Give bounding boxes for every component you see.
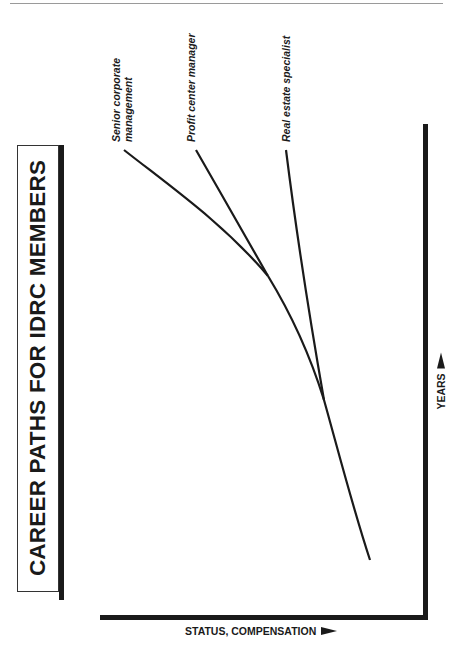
- right-arrow-icon: [321, 627, 337, 635]
- up-arrow-icon: [437, 352, 445, 368]
- path-senior-corporate: [124, 150, 268, 276]
- path-profit-center: [196, 150, 268, 276]
- x-axis: [100, 615, 428, 620]
- y-axis-label: YEARS: [435, 352, 447, 409]
- x-axis-label: STATUS, COMPENSATION: [185, 625, 337, 637]
- label-senior-line1: Senior corporate: [110, 58, 122, 142]
- label-senior-line2: management: [122, 58, 134, 142]
- label-real-estate-line1: Real estate specialist: [280, 36, 292, 142]
- y-axis: [423, 124, 428, 620]
- label-senior-corporate: Senior corporate management: [110, 58, 134, 142]
- label-profit-center: Profit center manager: [185, 33, 197, 142]
- career-paths-curves: [0, 0, 454, 646]
- path-trunk: [268, 276, 370, 560]
- label-real-estate: Real estate specialist: [280, 36, 292, 142]
- x-axis-label-text: STATUS, COMPENSATION: [185, 625, 316, 637]
- path-real-estate: [286, 150, 324, 400]
- y-axis-label-text: YEARS: [435, 373, 447, 409]
- label-profit-line1: Profit center manager: [185, 33, 197, 142]
